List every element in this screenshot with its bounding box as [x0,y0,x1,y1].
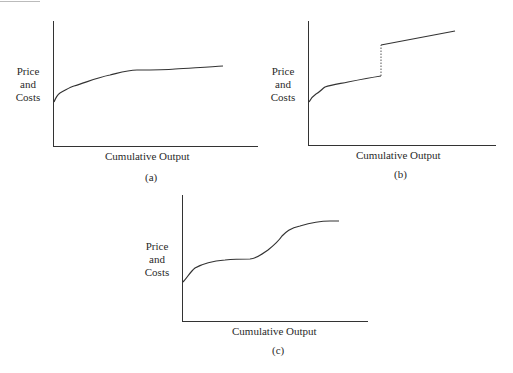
ylabel-line: Price [137,240,177,253]
y-axis-label: Price and Costs [263,65,303,104]
ylabel-line: and [263,78,303,91]
ylabel-line: Price [8,65,48,78]
ylabel-line: Costs [137,266,177,279]
curve-c [183,221,339,282]
panel-caption: (c) [272,344,284,356]
chart-panel-a: Price and Costs Cumulative Output (a) [0,0,260,185]
ylabel-line: Costs [263,91,303,104]
x-axis-label: Cumulative Output [232,325,317,337]
y-axis-label: Price and Costs [137,240,177,279]
chart-panel-b: Price and Costs Cumulative Output (b) [256,0,513,185]
y-axis-label: Price and Costs [8,65,48,104]
curve-b-upper [381,31,455,45]
curve-b-lower [309,76,381,102]
curve-a [54,66,223,102]
ylabel-line: and [8,78,48,91]
x-axis-label: Cumulative Output [356,149,441,161]
chart-panel-c: Price and Costs Cumulative Output (c) [140,180,380,373]
x-axis-label: Cumulative Output [105,150,190,162]
panel-caption: (b) [394,168,407,180]
ylabel-line: and [137,253,177,266]
ylabel-line: Costs [8,91,48,104]
ylabel-line: Price [263,65,303,78]
